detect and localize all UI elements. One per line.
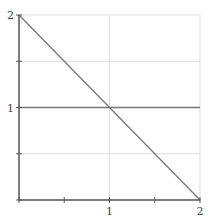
line-chart: 1212	[0, 0, 209, 222]
x-tick-label: 1	[106, 205, 113, 218]
y-tick-label: 1	[7, 102, 14, 115]
tick-labels: 1212	[7, 9, 204, 218]
axes	[16, 15, 200, 203]
y-tick-label: 2	[7, 9, 14, 22]
x-tick-label: 2	[197, 205, 204, 218]
